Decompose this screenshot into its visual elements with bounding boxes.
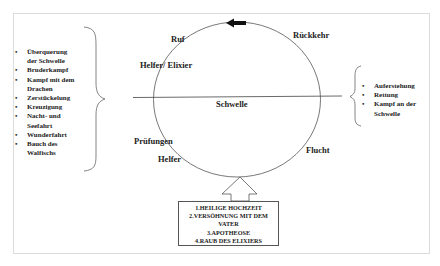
list-item: Überquerung [13,48,74,57]
left-brace [84,27,105,171]
list-item: der Schwelle [13,57,74,66]
label-flucht: Flucht [306,146,330,155]
list-item: Zerstückelung [13,94,74,103]
boon-line: VATER [179,220,278,228]
left-trials-list: Überquerung der Schwelle Bruderkampf Kam… [13,48,74,158]
list-item: Bruderkampf [13,66,74,75]
label-pruefungen: Prüfungen [134,137,173,146]
list-item: Kampf mit dem [13,76,74,85]
list-item-continuation: Seefahrt [13,122,74,131]
label-helfer: Helfer [158,155,181,164]
boon-line: 2.VERSÖHNUNG MIT DEM [179,212,278,220]
label-rueckkehr: Rückkehr [293,31,329,40]
boons-box: 1.HEILIGE HOCHZEIT 2.VERSÖHNUNG MIT DEM … [178,201,279,246]
label-ruf: Ruf [171,35,185,44]
direction-arrow-icon [226,19,246,28]
list-item: Wunderfahrt [13,131,74,140]
list-item: Auferstehung [360,82,416,91]
boon-line: 3.APOTHEOSE [179,229,278,237]
threshold-line [133,96,342,98]
label-schwelle: Schwelle [216,100,248,109]
list-item: Kampf an der [360,100,416,109]
list-item-continuation: Schwelle [360,110,416,119]
right-return-list: Auferstehung Rettung Kampf an der Schwel… [360,82,416,119]
boon-line: 1.HEILIGE HOCHZEIT [179,204,278,212]
list-item: Bauch des [13,140,74,149]
up-arrow [222,177,257,201]
list-item: Rettung [360,91,416,100]
list-item-continuation: Drachen [13,85,74,94]
list-item-continuation: Walfischs [13,149,74,158]
label-helfer-elixier: Helfer/ Elixier [140,61,192,70]
boon-line: 4.RAUB DES ELIXIERS [179,237,278,245]
list-item: Kreuzigung [13,103,74,112]
list-item: Nacht- und [13,112,74,121]
list-item-continuation: der Schwelle [27,57,65,65]
